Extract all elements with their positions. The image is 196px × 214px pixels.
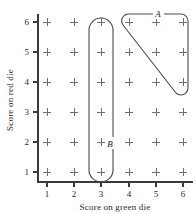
x-tick-label: 6 [181,189,186,199]
x-tick-label: 5 [154,189,159,199]
marker-point [179,18,187,26]
marker-point [125,78,133,86]
marker-point [152,48,160,56]
marker-point [152,168,160,176]
marker-point [152,78,160,86]
x-axis-tick-labels: 1 2 3 4 5 6 [45,189,186,199]
marker-point [70,78,78,86]
region-a-outline [122,14,188,95]
x-tick-label: 4 [127,189,132,199]
y-tick-label: 4 [25,77,30,87]
y-tick-label: 6 [25,17,30,27]
scatter-plot-canvas: 6 5 4 3 2 1 1 2 3 4 5 6 Score on green d… [0,0,196,214]
marker-point [43,18,51,26]
marker-point [70,168,78,176]
marker-point [70,108,78,116]
marker-point [125,168,133,176]
marker-point [97,48,105,56]
marker-point [43,48,51,56]
x-tick-label: 2 [72,189,77,199]
marker-point [125,48,133,56]
marker-point [179,78,187,86]
marker-point [43,108,51,116]
y-tick-label: 1 [25,167,30,177]
data-point-markers [43,18,187,176]
marker-point [70,18,78,26]
marker-point [43,138,51,146]
dice-sample-space-figure: 6 5 4 3 2 1 1 2 3 4 5 6 Score on green d… [0,0,196,214]
marker-point [125,108,133,116]
marker-point [125,138,133,146]
marker-point [179,168,187,176]
axis-lines [38,14,193,182]
marker-point [179,138,187,146]
region-b-outline-group: B [89,18,116,182]
marker-point [70,48,78,56]
x-axis-title: Score on green die [80,202,151,212]
marker-point [179,48,187,56]
marker-point [43,168,51,176]
marker-point [97,18,105,26]
region-a-label: A [154,9,161,19]
marker-point [43,78,51,86]
y-tick-label: 5 [25,47,30,57]
x-tick-label: 1 [45,189,50,199]
marker-point [97,108,105,116]
x-tick-label: 3 [99,189,104,199]
marker-point [97,78,105,86]
region-b-outline [89,18,113,182]
y-axis-title: Score on red die [5,69,15,131]
region-b-label: B [107,139,113,149]
marker-point [125,18,133,26]
marker-point [152,108,160,116]
marker-point [97,138,105,146]
y-tick-label: 3 [25,107,30,117]
y-axis-tick-labels: 6 5 4 3 2 1 [25,17,30,177]
y-tick-label: 2 [25,137,30,147]
marker-point [70,138,78,146]
marker-point [97,168,105,176]
marker-point [152,138,160,146]
marker-point [152,18,160,26]
marker-point [179,108,187,116]
